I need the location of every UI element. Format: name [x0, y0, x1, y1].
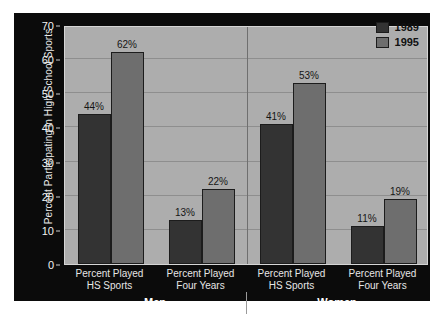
y-axis-tick-mark: [56, 230, 60, 231]
chart-panel: Percent Participating in High School Spo…: [14, 13, 430, 301]
y-axis-tick-mark: [56, 94, 60, 95]
bar-value-label: 13%: [175, 207, 195, 218]
bar-value-label: 62%: [117, 39, 137, 50]
category-label-line1: Percent Played: [331, 268, 435, 280]
group-label-women: Women: [257, 296, 417, 308]
bar-value-label: 41%: [266, 111, 286, 122]
bar-value-label: 11%: [357, 213, 376, 224]
category-label-line2: Four Years: [149, 280, 253, 292]
bar-chart-figure: Percent Participating in High School Spo…: [0, 0, 444, 320]
group-label-divider: [246, 292, 247, 314]
category-label-line2: HS Sports: [240, 280, 344, 292]
y-axis-tick-labels: 010203040506070: [30, 13, 60, 301]
legend-item-1995: 1995: [376, 36, 419, 48]
y-axis-tick-label: 0: [48, 259, 54, 271]
y-axis-tick-label: 10: [42, 225, 54, 237]
group-divider: [247, 27, 248, 264]
legend-swatch-1989: [376, 22, 389, 33]
bar-1989-3: [260, 124, 293, 264]
category-label-line2: Four Years: [331, 280, 435, 292]
bar-1989-1: [78, 114, 111, 264]
bar-1995-1: [111, 52, 144, 264]
legend-label-1989: 1989: [395, 21, 419, 33]
bar-value-label: 44%: [84, 101, 104, 112]
y-axis-tick-label: 20: [42, 191, 54, 203]
category-label-line1: Percent Played: [58, 268, 162, 280]
category-label-4: Percent PlayedFour Years: [331, 268, 435, 292]
category-label-line2: HS Sports: [58, 280, 162, 292]
legend: 1989 1995: [373, 19, 422, 53]
bar-1995-4: [384, 199, 417, 264]
legend-label-1995: 1995: [395, 36, 419, 48]
bar-value-label: 53%: [299, 70, 319, 81]
bar-1989-4: [351, 226, 384, 264]
bar-1995-2: [202, 189, 235, 264]
y-axis-tick-label: 50: [42, 88, 54, 100]
bar-value-label: 19%: [390, 186, 410, 197]
group-label-men: Men: [75, 296, 235, 308]
category-label-line1: Percent Played: [149, 268, 253, 280]
bar-1995-3: [293, 83, 326, 264]
plot-area: 44%62%13%22%41%53%11%19%: [64, 26, 428, 265]
y-axis-tick-label: 30: [42, 157, 54, 169]
y-axis-tick-mark: [56, 196, 60, 197]
group-labels: MenWomen: [64, 296, 428, 312]
category-label-3: Percent PlayedHS Sports: [240, 268, 344, 292]
category-label-line1: Percent Played: [240, 268, 344, 280]
legend-swatch-1995: [376, 37, 389, 48]
y-axis-tick-label: 60: [42, 54, 54, 66]
category-label-1: Percent PlayedHS Sports: [58, 268, 162, 292]
y-axis-tick-mark: [56, 128, 60, 129]
y-axis-tick-label: 70: [42, 20, 54, 32]
legend-item-1989: 1989: [376, 21, 419, 33]
bar-1989-2: [169, 220, 202, 264]
y-axis-tick-mark: [56, 26, 60, 27]
category-label-2: Percent PlayedFour Years: [149, 268, 253, 292]
y-axis-tick-mark: [56, 162, 60, 163]
y-axis-tick-mark: [56, 60, 60, 61]
y-axis-tick-label: 40: [42, 122, 54, 134]
bar-value-label: 22%: [208, 176, 228, 187]
y-axis-tick-mark: [56, 265, 60, 266]
